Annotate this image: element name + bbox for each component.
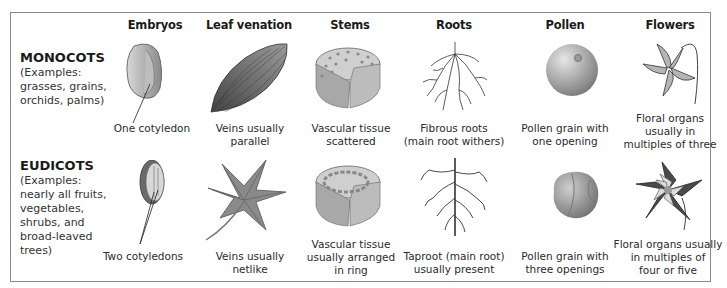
caption-line: usually present [394, 263, 514, 276]
five-part-flower-illustration [632, 158, 707, 238]
caption-line: Taproot (main root) [394, 250, 514, 263]
pollen-one-opening-illustration [544, 42, 604, 102]
monocots-label: MONOCOTS (Examples: grasses, grains, orc… [20, 50, 107, 108]
caption-line: Floral organs [610, 112, 727, 125]
caption-line: in multiples of [606, 251, 727, 264]
stem-section-ring-illustration [310, 160, 390, 232]
two-cotyledon-seed-illustration [128, 160, 178, 250]
caption-pollen-one-opening: Pollen grain with one opening [505, 122, 625, 148]
column-header-flowers: Flowers [620, 18, 720, 32]
caption-line: usually arranged [291, 251, 411, 264]
stem-section-scattered-illustration [310, 42, 390, 112]
eudicots-examples-line: (Examples: [20, 174, 106, 188]
eudicots-label: EUDICOTS (Examples: nearly all fruits, v… [20, 158, 106, 258]
column-header-leaf-venation: Leaf venation [199, 18, 299, 32]
caption-line: Pollen grain with [505, 122, 625, 135]
taproot-illustration [415, 158, 495, 240]
eudicots-examples-line: broad-leaved [20, 230, 106, 244]
caption-line: scattered [291, 135, 411, 148]
fibrous-roots-illustration [415, 40, 495, 115]
monocots-examples-line: grasses, grains, [20, 80, 107, 94]
caption-line: Vascular tissue [291, 122, 411, 135]
net-veined-leaf-illustration [200, 158, 290, 248]
monocots-title: MONOCOTS [20, 50, 107, 66]
column-header-roots: Roots [404, 18, 504, 32]
caption-flower-three: Floral organs usually in multiples of th… [610, 112, 727, 151]
eudicots-examples-line: shrubs, and [20, 216, 106, 230]
caption-line: Floral organs usually [606, 238, 727, 251]
caption-line: one opening [505, 135, 625, 148]
column-header-stems: Stems [300, 18, 400, 32]
caption-line: multiples of three [610, 138, 727, 151]
caption-flower-four-five: Floral organs usually in multiples of fo… [606, 238, 727, 277]
eudicots-examples-line: vegetables, [20, 202, 106, 216]
caption-line: Vascular tissue [291, 238, 411, 251]
monocots-examples-line: (Examples: [20, 66, 107, 80]
caption-two-cotyledons: Two cotyledons [83, 250, 203, 263]
caption-line: Fibrous roots [394, 122, 514, 135]
parallel-veined-leaf-illustration [205, 40, 295, 120]
three-part-flower-illustration [637, 34, 707, 114]
caption-line: four or five [606, 264, 727, 277]
column-header-pollen: Pollen [515, 18, 615, 32]
eudicots-title: EUDICOTS [20, 158, 106, 174]
caption-line: usually in [610, 125, 727, 138]
caption-line: (main root withers) [394, 135, 514, 148]
monocots-examples-line: orchids, palms) [20, 94, 107, 108]
caption-line: Two cotyledons [83, 250, 203, 263]
pollen-three-openings-illustration [546, 166, 606, 226]
eudicots-examples-line: nearly all fruits, [20, 188, 106, 202]
caption-fibrous-roots: Fibrous roots (main root withers) [394, 122, 514, 148]
caption-taproot: Taproot (main root) usually present [394, 250, 514, 276]
caption-vascular-ring: Vascular tissue usually arranged in ring [291, 238, 411, 277]
column-header-embryos: Embryos [105, 18, 205, 32]
caption-vascular-scattered: Vascular tissue scattered [291, 122, 411, 148]
caption-line: in ring [291, 264, 411, 277]
